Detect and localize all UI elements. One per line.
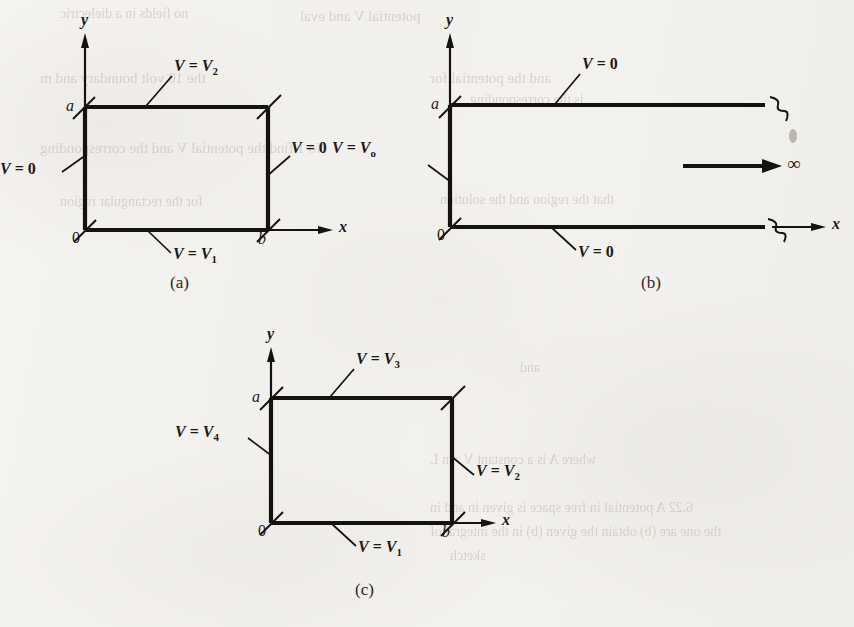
boundary-label-c-right: V = V2 xyxy=(476,462,520,482)
origin-label-a: 0 xyxy=(72,229,80,247)
panel-b: y x a 0 V = 0 V = Vo V = 0 ∞ (b) xyxy=(400,0,854,300)
y-tick-a-b: a xyxy=(431,95,439,113)
leader-lines-a xyxy=(62,76,290,253)
x-axis-label-a: x xyxy=(339,218,347,236)
infinity-arrow-b xyxy=(683,159,782,173)
boundary-label-c-left: V = V4 xyxy=(175,423,219,443)
y-axis-label-c: y xyxy=(267,325,274,343)
caption-c: (c) xyxy=(355,580,374,600)
boundary-label-a-right: V = 0 xyxy=(291,139,327,157)
boundary-label-b-top: V = 0 xyxy=(582,55,618,73)
boundary-label-a-bottom: V = V1 xyxy=(173,245,217,265)
origin-label-c: 0 xyxy=(258,522,266,540)
x-tick-b-a: b xyxy=(258,230,266,248)
boundary-label-a-left: V = 0 xyxy=(0,160,36,178)
caption-b: (b) xyxy=(641,273,661,293)
panel-c: y x a b 0 V = V3 V = V4 V = V2 V = V1 (c… xyxy=(140,310,620,590)
corner-hatches-c xyxy=(260,386,465,536)
region-boundary-c xyxy=(271,398,452,523)
boundary-label-b-bottom: V = 0 xyxy=(578,243,614,261)
panel-b-drawing xyxy=(400,0,854,300)
y-axis-label-b: y xyxy=(446,11,453,29)
boundary-label-a-top: V = V2 xyxy=(174,57,218,77)
boundary-label-b-left: V = Vo xyxy=(332,139,376,159)
y-tick-a-a: a xyxy=(66,97,74,115)
corner-hatches-a xyxy=(73,95,281,242)
region-boundary-a xyxy=(85,107,268,230)
leader-lines-c xyxy=(248,369,474,546)
x-axis-label-b: x xyxy=(832,215,840,233)
x-tick-b-c: b xyxy=(442,523,450,541)
scan-speck xyxy=(789,129,797,143)
infinity-label-b: ∞ xyxy=(787,153,801,175)
y-axis-label-a: y xyxy=(81,11,88,29)
boundary-label-c-top: V = V3 xyxy=(356,350,400,370)
x-axis-label-c: x xyxy=(502,511,510,529)
figure-page: potential V and evalno fields in a diele… xyxy=(0,0,854,627)
boundary-label-c-bottom: V = V1 xyxy=(358,538,402,558)
y-tick-a-c: a xyxy=(252,388,260,406)
origin-label-b: 0 xyxy=(437,226,445,244)
caption-a: (a) xyxy=(170,273,189,293)
